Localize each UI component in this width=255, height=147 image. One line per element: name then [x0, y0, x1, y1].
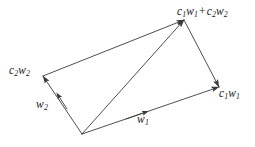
label-w1-subscript: 1	[145, 118, 149, 127]
label-sum-w2-subscript: 2	[224, 10, 228, 19]
label-w1: w1	[137, 114, 149, 127]
label-c1w1-w-subscript: 1	[236, 92, 240, 101]
vector-diagram-figure: c1w1+c2w2 c2w2 c1w1 w2 w1	[0, 0, 255, 147]
label-c1w1-plus-c2w2: c1w1+c2w2	[177, 6, 228, 19]
label-sum-w2: w	[216, 5, 224, 17]
label-sum-operator: +	[198, 5, 207, 17]
label-w2-subscript: 2	[44, 103, 48, 112]
vector-diagram-canvas	[0, 0, 255, 147]
label-c2w2-w: w	[18, 64, 26, 76]
label-c1w1: c1w1	[219, 88, 240, 101]
vector-w2-arrow	[58, 95, 67, 109]
label-w2-w: w	[36, 98, 44, 110]
label-c2w2-w-subscript: 2	[26, 69, 30, 78]
label-w2: w2	[36, 99, 48, 112]
vector-c2w2-line	[43, 76, 82, 134]
parallelogram-right-edge	[184, 20, 219, 87]
label-c1w1-w: w	[228, 87, 236, 99]
parallelogram-top-edge	[43, 20, 184, 76]
label-c2w2: c2w2	[9, 65, 30, 78]
label-sum-w1: w	[186, 5, 194, 17]
label-w1-w: w	[137, 113, 145, 125]
